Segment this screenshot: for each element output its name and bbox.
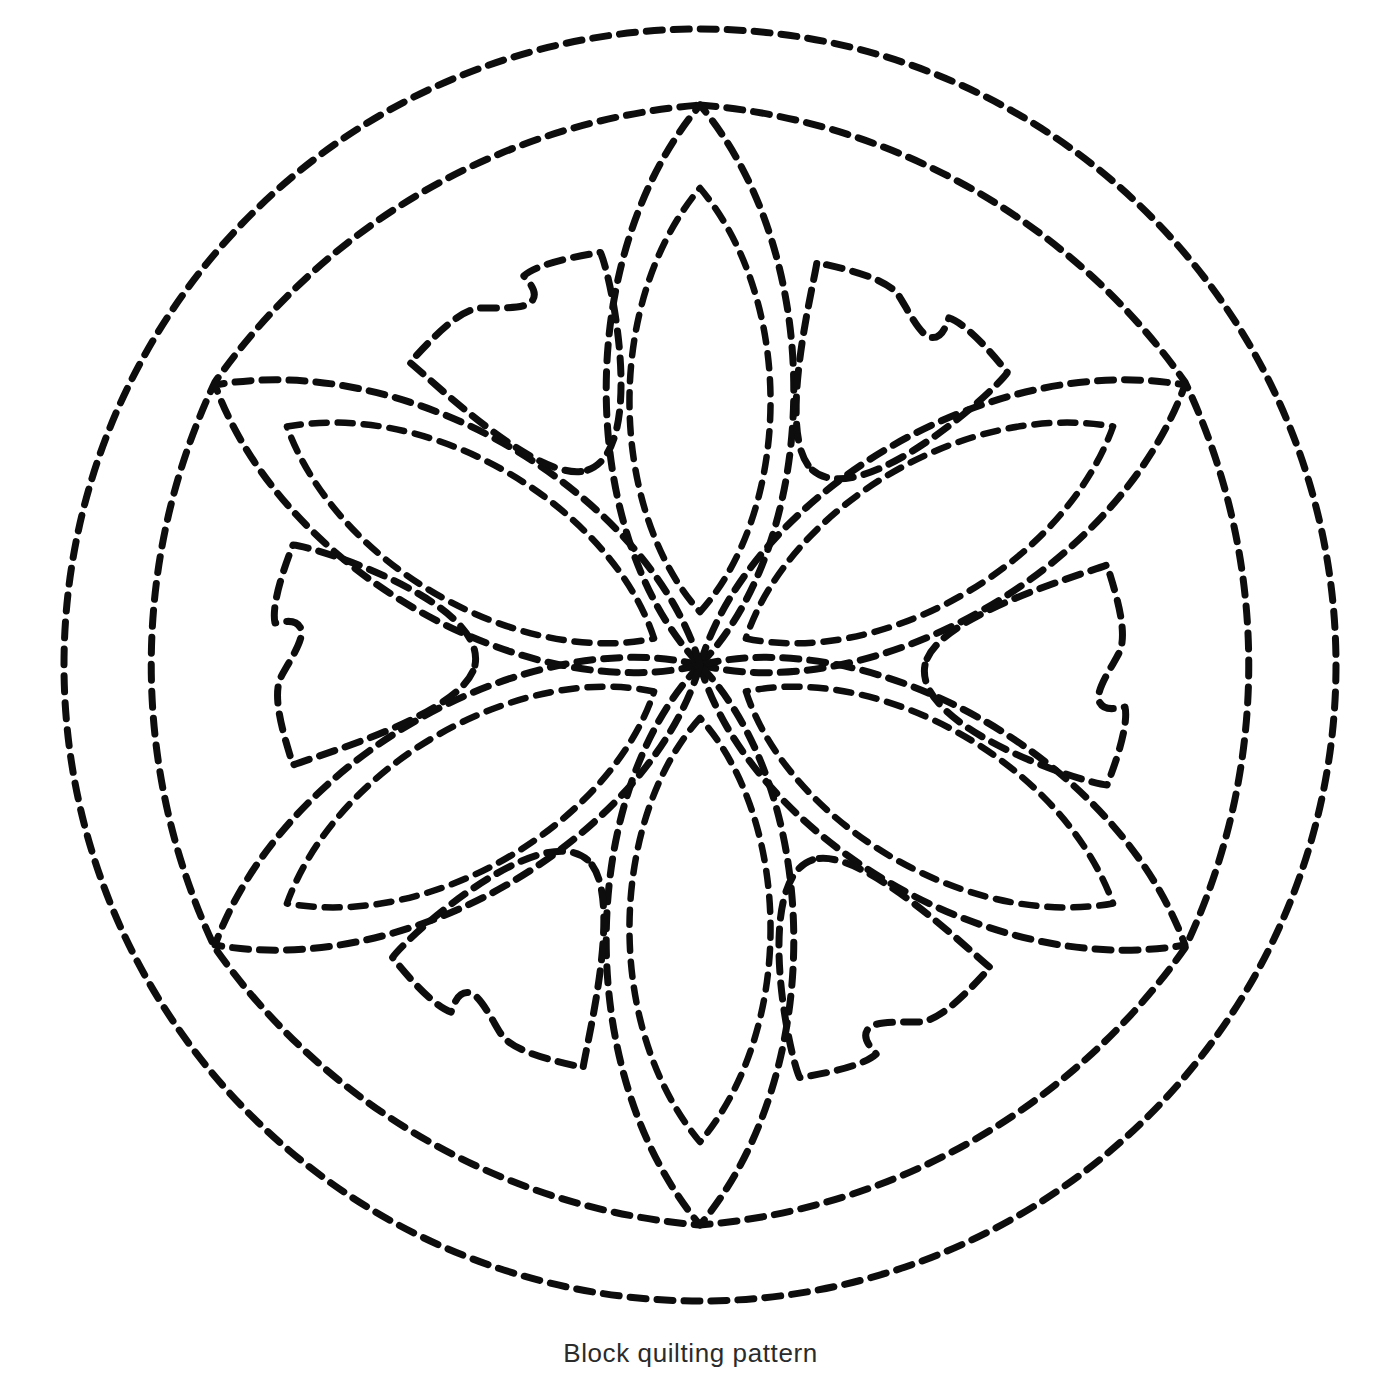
petal-inner [629, 718, 770, 1142]
petal-inner [629, 188, 770, 612]
petal-upper-left [168, 304, 747, 746]
petal-outer [168, 304, 747, 746]
page-canvas: Block quilting pattern [0, 0, 1381, 1391]
figure-caption: Block quilting pattern [0, 1338, 1381, 1369]
petal-outer [653, 584, 1232, 1026]
petal-down [606, 665, 794, 1225]
petal-group [168, 105, 1232, 1225]
petal-outer [168, 584, 747, 1026]
petal-outer [653, 304, 1232, 746]
petal-lower-right [653, 584, 1232, 1026]
petal-upper-right [653, 304, 1232, 746]
petal-lower-left [168, 584, 747, 1026]
quilting-pattern-figure [0, 0, 1381, 1391]
petal-up [606, 105, 794, 665]
